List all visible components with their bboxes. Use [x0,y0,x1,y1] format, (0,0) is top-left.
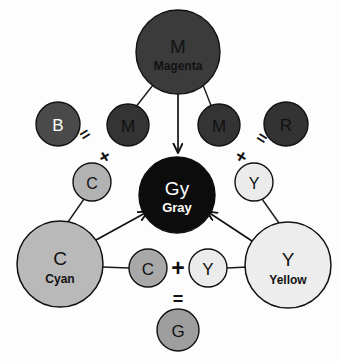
node-yellow-small-upper-letter: Y [249,175,260,192]
node-red[interactable]: R [264,102,308,146]
op-equals-bottom-icon: = [173,289,184,309]
node-magenta-main-name: Magenta [154,59,203,73]
node-red-letter: R [280,116,292,135]
node-magenta-right[interactable]: M [198,104,240,146]
node-gray[interactable]: Gy Gray [139,157,215,233]
node-cyan-small-lower-letter: C [142,260,154,279]
node-yellow-main-name: Yellow [269,273,307,287]
diagram-canvas: = + + = + = M Magenta B M M [0,0,340,362]
node-gray-name: Gray [162,200,192,215]
node-yellow-main-letter: Y [282,249,295,270]
node-cyan-small-upper[interactable]: C [73,163,111,201]
node-yellow-small-lower[interactable]: Y [189,249,227,287]
link-cyan-to-c-lower [102,267,129,268]
node-yellow-small-upper[interactable]: Y [235,163,273,201]
node-magenta-left[interactable]: M [107,104,149,146]
node-blue[interactable]: B [36,102,80,146]
node-green[interactable]: G [157,309,199,351]
node-magenta-right-letter: M [212,117,226,136]
node-gray-letter: Gy [165,178,190,199]
node-yellow-small-lower-letter: Y [202,260,213,279]
node-blue-letter: B [52,116,63,135]
link-c-upper-to-cyan [68,199,84,222]
link-magenta-to-m-right [203,85,212,108]
node-green-letter: G [171,322,184,341]
node-cyan-main-name: Cyan [45,272,74,286]
color-mixing-diagram: = + + = + = M Magenta B M M [0,0,340,362]
link-y-upper-to-yellow [262,199,279,223]
node-cyan-main-letter: C [53,248,67,269]
node-yellow-main[interactable]: Y Yellow [245,222,331,308]
arrow-cyan-to-gray [96,212,147,240]
node-magenta-main[interactable]: M Magenta [136,10,220,94]
node-cyan-main[interactable]: C Cyan [17,221,103,307]
op-plus-bottom-icon: + [171,255,184,281]
node-cyan-small-lower[interactable]: C [129,249,167,287]
node-cyan-small-upper-letter: C [86,175,98,192]
link-magenta-to-m-left [135,85,153,108]
node-magenta-left-letter: M [121,117,135,136]
node-magenta-main-letter: M [170,36,186,57]
arrow-yellow-to-gray [208,212,252,241]
